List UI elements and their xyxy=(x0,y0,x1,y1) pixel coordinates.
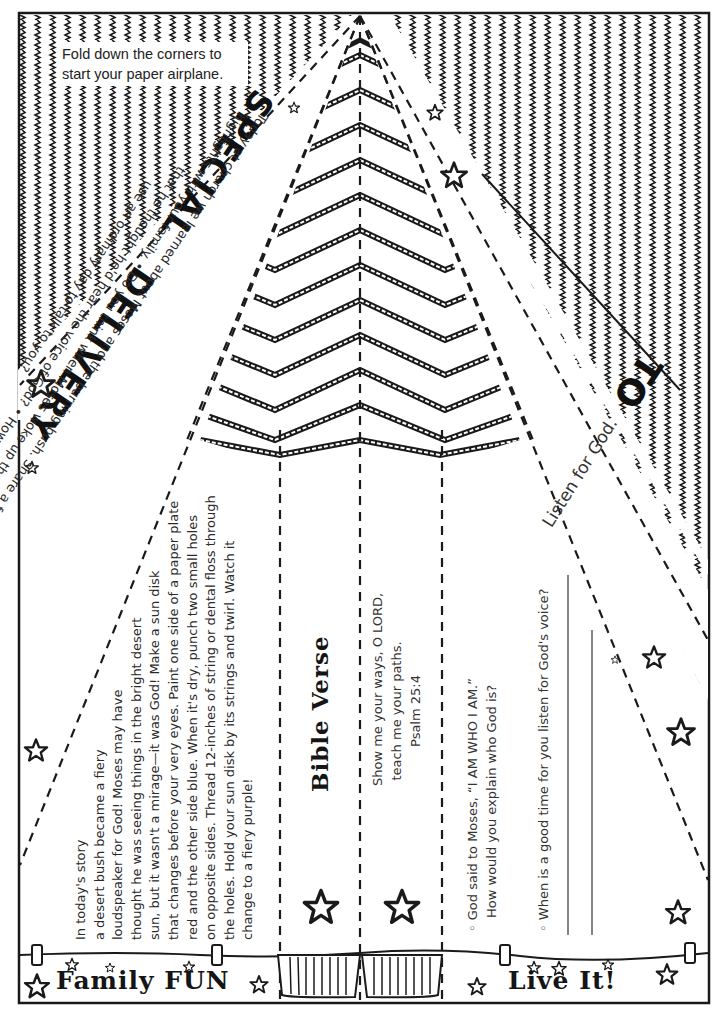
story-line: change to a fiery purple! xyxy=(239,495,258,940)
question-line: How would you explain who God is? xyxy=(482,678,501,932)
verse-line: teach me your paths. xyxy=(387,636,406,786)
story-line: a desert bush became a fiery xyxy=(91,495,110,940)
story-line: the holes. Hold your sun disk by its str… xyxy=(221,495,240,940)
verse-reference: Psalm 25:4 xyxy=(406,636,425,786)
live-it-question-2: ◦ When is a good time for you listen for… xyxy=(534,589,553,932)
story-line: loudspeaker for God! Moses may have xyxy=(109,495,128,940)
bible-verse-title: Bible Verse xyxy=(306,635,333,792)
fold-instruction: Fold down the corners to start your pape… xyxy=(60,42,248,86)
story-line: red and the other side blue. When it's d… xyxy=(184,495,203,940)
fold-instruction-line1: Fold down the corners to xyxy=(62,44,248,64)
question-line: ◦ God said to Moses, “I AM WHO I AM.” xyxy=(463,678,482,932)
family-fun-title: Family FUN xyxy=(56,966,230,995)
story-line: that changes before your very eyes. Pain… xyxy=(165,495,184,940)
family-fun-story: In today's story a desert bush became a … xyxy=(72,495,258,940)
fold-instruction-line2: start your paper airplane. xyxy=(62,64,248,84)
live-it-question-1: ◦ God said to Moses, “I AM WHO I AM.” Ho… xyxy=(463,678,501,932)
story-line: In today's story xyxy=(72,495,91,940)
live-it-title: Live It! xyxy=(508,966,616,995)
story-line: sun, but it wasn't a mirage—it was God! … xyxy=(146,495,165,940)
verse-line: Show me your ways, O LORD, xyxy=(368,636,387,786)
bible-verse-text: Show me your ways, O LORD, teach me your… xyxy=(368,636,425,786)
story-line: on opposite sides. Thread 12-inches of s… xyxy=(202,495,221,940)
question-line: ◦ When is a good time for you listen for… xyxy=(534,589,553,932)
story-line: thought he was seeing things in the brig… xyxy=(128,495,147,940)
